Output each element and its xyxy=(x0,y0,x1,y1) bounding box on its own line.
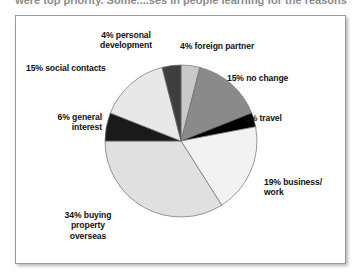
pie-slice-group xyxy=(105,65,257,217)
pie-label-buying-property: 34% buying property overseas xyxy=(36,210,140,241)
pie-label-travel: 3% travel xyxy=(245,113,325,123)
clipped-headline-text: were top priority. Some....ses in people… xyxy=(0,0,362,6)
pie-label-social-contacts: 15% social contacts xyxy=(26,63,136,73)
figure-frame: 4% personal development 4% foreign partn… xyxy=(15,15,346,264)
pie-label-personal-development: 4% personal development xyxy=(84,30,168,51)
pie-label-general-interest: 6% general interest xyxy=(18,112,102,133)
pie-label-business-work: 19% business/ work xyxy=(264,177,346,198)
pie-label-foreign-partner: 4% foreign partner xyxy=(180,41,290,51)
pie-label-no-change: 15% no change xyxy=(227,73,327,83)
pie-chart: 4% personal development 4% foreign partn… xyxy=(16,16,347,265)
